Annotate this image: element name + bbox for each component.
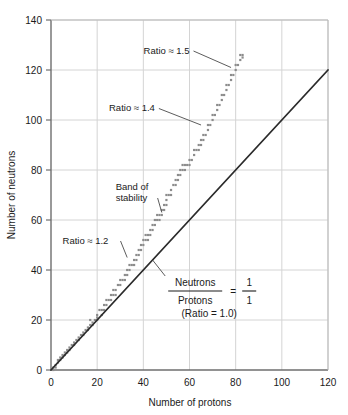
band-point bbox=[205, 134, 207, 136]
band-point bbox=[126, 269, 128, 271]
band-point bbox=[135, 254, 137, 256]
y-axis-title: Number of neutrons bbox=[6, 151, 17, 239]
band-point bbox=[188, 164, 190, 166]
x-tick-label-40: 40 bbox=[138, 377, 150, 388]
band-point bbox=[239, 59, 241, 61]
y-tick-label-120: 120 bbox=[25, 65, 42, 76]
band-point bbox=[89, 319, 91, 321]
band-point bbox=[115, 289, 117, 291]
band-point bbox=[221, 99, 223, 101]
band-point bbox=[149, 229, 151, 231]
y-tick-label-80: 80 bbox=[31, 165, 43, 176]
band-point bbox=[211, 114, 213, 116]
band-point bbox=[112, 294, 114, 296]
band-point bbox=[168, 194, 170, 196]
band-point bbox=[110, 294, 112, 296]
fraction-numerator-neutrons: Neutrons bbox=[175, 277, 216, 288]
band-point bbox=[149, 234, 151, 236]
band-point bbox=[147, 234, 149, 236]
band-point bbox=[163, 209, 165, 211]
band-point bbox=[175, 184, 177, 186]
band-point bbox=[145, 239, 147, 241]
band-point bbox=[165, 204, 167, 206]
fraction-denominator-protons: Protons bbox=[178, 295, 212, 306]
band-point bbox=[151, 229, 153, 231]
band-point bbox=[151, 224, 153, 226]
band-point bbox=[179, 169, 181, 171]
band-point bbox=[108, 299, 110, 301]
equals-sign: = bbox=[230, 286, 236, 297]
band-point bbox=[181, 164, 183, 166]
band-point bbox=[230, 74, 232, 76]
band-point bbox=[119, 279, 121, 281]
annotation-ratio-12: Ratio ≈ 1.2 bbox=[63, 235, 109, 246]
band-point bbox=[110, 299, 112, 301]
band-point bbox=[117, 284, 119, 286]
x-axis-title: Number of protons bbox=[149, 397, 232, 408]
y-tick-label-0: 0 bbox=[36, 365, 42, 376]
band-point bbox=[193, 149, 195, 151]
band-point bbox=[241, 54, 243, 56]
band-point bbox=[230, 79, 232, 81]
band-point bbox=[147, 239, 149, 241]
band-point bbox=[154, 224, 156, 226]
band-point bbox=[135, 259, 137, 261]
band-point bbox=[211, 119, 213, 121]
band-point bbox=[158, 214, 160, 216]
band-point bbox=[124, 274, 126, 276]
band-point bbox=[202, 139, 204, 141]
band-point bbox=[200, 139, 202, 141]
band-point bbox=[186, 164, 188, 166]
x-tick-label-120: 120 bbox=[320, 377, 337, 388]
band-point bbox=[184, 164, 186, 166]
band-point bbox=[154, 219, 156, 221]
band-point bbox=[124, 279, 126, 281]
x-tick-label-80: 80 bbox=[230, 377, 242, 388]
band-point bbox=[138, 254, 140, 256]
band-point bbox=[103, 304, 105, 306]
band-point bbox=[126, 274, 128, 276]
band-point bbox=[209, 124, 211, 126]
annotation-ratio-equals-one: (Ratio = 1.0) bbox=[182, 308, 237, 319]
band-point bbox=[142, 239, 144, 241]
band-point bbox=[142, 244, 144, 246]
band-point bbox=[191, 159, 193, 161]
band-point bbox=[228, 84, 230, 86]
band-point bbox=[170, 194, 172, 196]
band-point bbox=[121, 279, 123, 281]
band-point bbox=[112, 289, 114, 291]
band-point bbox=[177, 179, 179, 181]
annotation-band-of-stability-line1: Band of bbox=[116, 181, 149, 192]
band-point bbox=[216, 109, 218, 111]
x-tick-label-0: 0 bbox=[48, 377, 54, 388]
band-point bbox=[119, 284, 121, 286]
annotation-band-of-stability-line2: stability bbox=[116, 192, 148, 203]
band-point bbox=[218, 104, 220, 106]
band-point bbox=[101, 309, 103, 311]
band-point bbox=[105, 304, 107, 306]
band-point bbox=[232, 74, 234, 76]
band-point bbox=[105, 299, 107, 301]
band-point bbox=[235, 64, 237, 66]
fraction-denominator-one: 1 bbox=[246, 295, 252, 306]
band-of-stability-chart: 020406080100120140 020406080100120 Ratio… bbox=[0, 0, 348, 415]
band-point bbox=[131, 264, 133, 266]
band-point bbox=[128, 264, 130, 266]
band-point bbox=[198, 144, 200, 146]
band-point bbox=[96, 314, 98, 316]
band-point bbox=[145, 234, 147, 236]
y-tick-label-60: 60 bbox=[31, 215, 43, 226]
band-point bbox=[225, 89, 227, 91]
band-point bbox=[223, 94, 225, 96]
band-point bbox=[239, 54, 241, 56]
band-point bbox=[158, 219, 160, 221]
band-point bbox=[165, 194, 167, 196]
band-point bbox=[181, 169, 183, 171]
band-point bbox=[115, 294, 117, 296]
band-point bbox=[179, 174, 181, 176]
band-point bbox=[221, 94, 223, 96]
chart-svg: 020406080100120140 020406080100120 Ratio… bbox=[0, 0, 348, 415]
band-point bbox=[198, 149, 200, 151]
band-point bbox=[163, 204, 165, 206]
fraction-numerator-one: 1 bbox=[246, 277, 252, 288]
